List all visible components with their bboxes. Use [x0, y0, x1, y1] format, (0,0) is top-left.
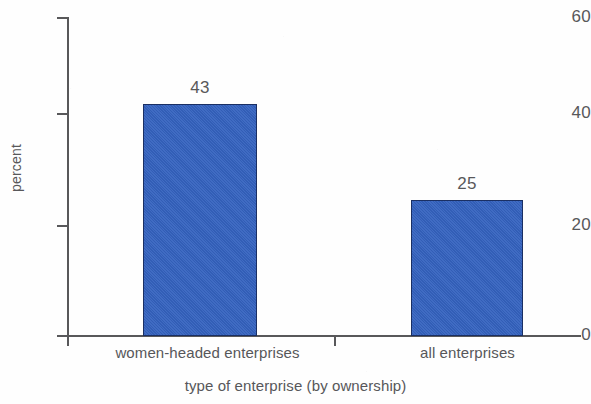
- y-axis-tick-label-60: 60: [543, 7, 591, 27]
- y-axis-title: percent: [8, 128, 24, 208]
- y-axis-tick-label-40: 40: [543, 103, 591, 123]
- x-axis-category-label-all-enterprises: all enterprises: [395, 344, 540, 361]
- bar-women-headed-enterprises: [143, 104, 257, 336]
- y-axis-tick-label-20: 20: [543, 215, 591, 235]
- x-axis-tick-middle: [334, 337, 336, 346]
- bar-all-enterprises: [411, 200, 523, 336]
- x-axis-tick-start: [67, 337, 69, 346]
- y-axis-tick-0: [57, 335, 67, 337]
- y-axis-tick-60: [57, 17, 67, 19]
- y-axis-tick-40: [57, 113, 67, 115]
- bar-chart: 60 40 20 0 percent 43 25 women-headed en…: [0, 0, 591, 404]
- bar-value-label-all-enterprises: 25: [411, 174, 523, 194]
- y-axis-line: [67, 17, 69, 337]
- x-axis-title: type of enterprise (by ownership): [0, 377, 591, 394]
- y-axis-tick-20: [57, 225, 67, 227]
- bar-value-label-women-headed-enterprises: 43: [143, 78, 257, 98]
- x-axis-category-label-women-headed-enterprises: women-headed enterprises: [85, 344, 330, 361]
